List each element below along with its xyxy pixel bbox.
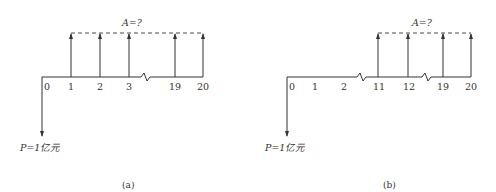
tick-label: 3 bbox=[126, 81, 132, 92]
panel-caption: (b) bbox=[383, 180, 396, 190]
tick-label: 19 bbox=[169, 81, 181, 92]
tick-label: 0 bbox=[289, 81, 295, 92]
tick-label: 20 bbox=[197, 81, 209, 92]
present-value-label: P=1亿元 bbox=[264, 142, 306, 153]
tick-label: 19 bbox=[437, 81, 449, 92]
tick-label: 2 bbox=[341, 81, 347, 92]
cash-flow-diagrams: A=? 0 1 2 3 19 20 P=1亿元 (a) A=? 0 1 2 11… bbox=[0, 0, 496, 192]
tick-label: 11 bbox=[373, 81, 385, 92]
panel-caption: (a) bbox=[122, 180, 134, 190]
tick-label: 20 bbox=[465, 81, 477, 92]
tick-label: 1 bbox=[312, 81, 318, 92]
present-value-label: P=1亿元 bbox=[19, 142, 61, 153]
annuity-label: A=? bbox=[121, 17, 143, 28]
panel-b: A=? 0 1 2 11 12 19 20 P=1亿元 (b) bbox=[264, 17, 477, 190]
tick-label: 1 bbox=[68, 81, 74, 92]
tick-label: 0 bbox=[44, 81, 50, 92]
tick-label: 2 bbox=[97, 81, 103, 92]
annuity-label: A=? bbox=[411, 17, 433, 28]
panel-a: A=? 0 1 2 3 19 20 P=1亿元 (a) bbox=[19, 17, 209, 190]
tick-label: 12 bbox=[403, 81, 415, 92]
time-axis bbox=[42, 73, 203, 81]
